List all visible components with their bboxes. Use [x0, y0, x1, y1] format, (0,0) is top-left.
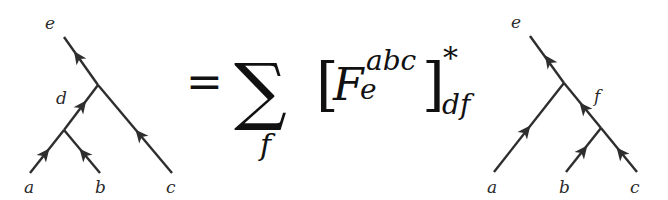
left-edge-e — [64, 37, 98, 85]
left-label-a: a — [24, 177, 34, 197]
right-label-c: c — [630, 177, 640, 197]
right-label-e: e — [511, 12, 521, 32]
left-edge-c — [98, 85, 172, 173]
left-label-d: d — [56, 88, 67, 108]
summation-symbol: ∑ — [234, 47, 287, 133]
left-label-e: e — [45, 13, 55, 33]
right-label-f: f — [592, 86, 603, 106]
right-fusion-tree: e f a b c — [487, 12, 640, 197]
equation: = ∑ f [ F abc e ] * df — [186, 40, 475, 162]
left-arrow-e-icon — [69, 48, 86, 66]
outer-subscript: df — [442, 88, 475, 121]
equals-sign: = — [186, 56, 223, 107]
right-label-b: b — [559, 177, 570, 197]
right-label-a: a — [487, 177, 497, 197]
f-move-diagram: e d a b c = ∑ f [ F abc e ] * df — [0, 0, 668, 200]
left-label-c: c — [166, 177, 176, 197]
left-label-b: b — [95, 177, 106, 197]
f-subscript: e — [360, 73, 377, 106]
left-fusion-tree: e d a b c — [24, 13, 176, 197]
conjugate-asterisk: * — [443, 40, 458, 75]
